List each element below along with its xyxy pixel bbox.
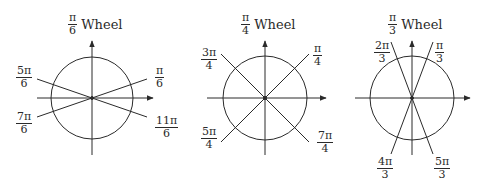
angle-label: π 3 xyxy=(435,41,444,64)
origin-dot xyxy=(411,97,414,100)
wheel-title: π 3 Wheel xyxy=(388,13,443,36)
origin-dot xyxy=(91,97,94,100)
title-word: Wheel xyxy=(401,17,442,32)
wheel-pi-over-3 xyxy=(355,41,470,155)
angle-label: 2π 3 xyxy=(374,41,390,64)
angle-label: 5π 3 xyxy=(434,157,450,180)
angle-label: 7π 4 xyxy=(317,131,333,154)
title-denominator: 6 xyxy=(69,25,76,36)
wheel-title: π 4 Wheel xyxy=(241,13,296,36)
title-denominator: 4 xyxy=(242,25,249,36)
wheel-pi-over-6 xyxy=(37,41,153,155)
angle-label: 7π 6 xyxy=(16,112,32,135)
angle-label: 5π 4 xyxy=(201,127,217,150)
wheel-pi-over-4 xyxy=(207,41,326,155)
title-denominator: 3 xyxy=(389,25,396,36)
angle-label: π 4 xyxy=(313,44,322,67)
angle-label: 5π 6 xyxy=(16,66,32,89)
origin-dot xyxy=(264,97,267,100)
angle-label: 11π 6 xyxy=(155,116,178,139)
title-word: Wheel xyxy=(81,17,122,32)
angle-label: 3π 4 xyxy=(201,48,217,71)
angle-label: 4π 3 xyxy=(377,157,393,180)
wheel-title: π 6 Wheel xyxy=(68,13,123,36)
title-word: Wheel xyxy=(254,17,295,32)
angle-label: π 6 xyxy=(155,66,164,89)
